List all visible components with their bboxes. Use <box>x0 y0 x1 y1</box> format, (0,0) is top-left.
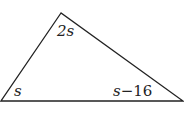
angle-label-left: s <box>14 84 22 99</box>
angle-label-right-text: s−16 <box>113 82 152 100</box>
angle-label-top: 2s <box>57 24 74 39</box>
angle-label-left-text: s <box>14 82 22 100</box>
triangle-diagram <box>0 0 184 117</box>
triangle-shape <box>1 13 183 101</box>
angle-label-top-text: 2s <box>57 22 74 40</box>
angle-label-right: s−16 <box>113 84 152 99</box>
